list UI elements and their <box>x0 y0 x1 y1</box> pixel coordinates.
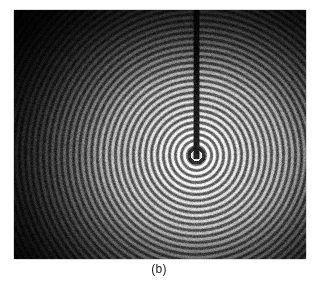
figure-container: (b) <box>0 0 318 286</box>
ripple-pattern-image <box>14 10 306 259</box>
photograph-frame <box>14 10 306 259</box>
figure-caption: (b) <box>0 262 318 276</box>
